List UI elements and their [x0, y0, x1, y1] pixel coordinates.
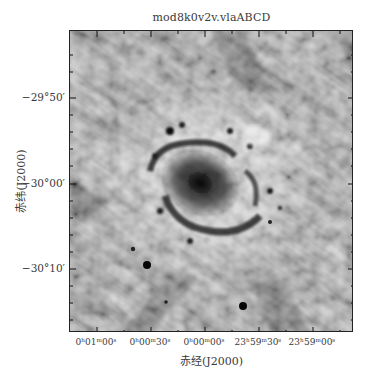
- figure-title: mod8k0v2v.vlaABCD: [69, 11, 354, 24]
- x-axis-label: 赤经(J2000): [69, 352, 354, 368]
- image-plot-area: [69, 30, 353, 332]
- radio-image: [70, 31, 353, 332]
- y-tick-label: −30°00′: [22, 177, 65, 189]
- y-tick-label: −29°50′: [22, 91, 65, 103]
- x-tick-label: 23ʰ59ᵐ00ˢ: [289, 337, 336, 347]
- x-tick-label: 0ʰ00ᵐ00ˢ: [183, 337, 224, 347]
- y-axis-label: 赤纬(J2000): [12, 150, 28, 213]
- y-tick-label: −30°10′: [22, 262, 65, 274]
- x-tick-label: 23ʰ59ᵐ30ˢ: [235, 337, 282, 347]
- x-tick-label: 0ʰ01ᵐ00ˢ: [75, 337, 116, 347]
- x-tick-label: 0ʰ00ᵐ30ˢ: [129, 337, 170, 347]
